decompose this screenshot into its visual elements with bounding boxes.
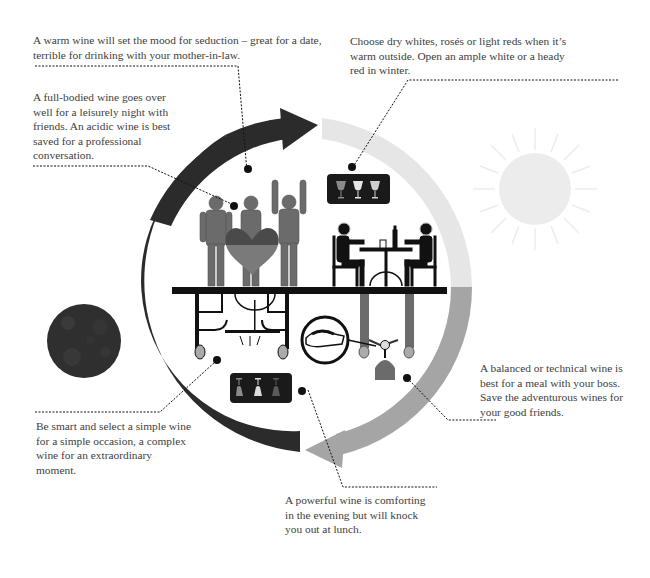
floor-bar [172,287,447,294]
caption-season: Choose dry whites, rosés or light reds w… [350,34,575,78]
leader-dot-friends [230,202,238,210]
caption-evening: A powerful wine is comforting in the eve… [285,493,435,537]
leader-dot-seduction [244,165,252,173]
moon-icon [47,304,121,378]
leader-dot-boss [403,374,411,382]
lower-glasses-panel [230,373,292,403]
underside-legs [359,294,414,380]
upper-glasses-panel [327,174,390,204]
caption-occasion: Be smart and select a simple wine for a … [36,419,191,477]
caption-seduction: A warm wine will set the mood for seduct… [33,33,323,62]
dining-couple [333,223,436,286]
sun-icon [473,128,597,250]
caption-boss: A balanced or technical wine is best for… [480,361,630,419]
underside-figures [195,294,289,359]
leader-dot-occasion [213,356,221,364]
caption-friends: A full-bodied wine goes over well for a … [33,90,188,163]
infographic-canvas [0,0,650,578]
leader-dot-season [348,163,356,171]
leader-dot-evening [298,387,306,395]
